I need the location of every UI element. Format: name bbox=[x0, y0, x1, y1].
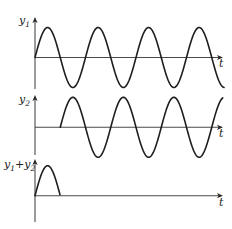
y1-axis-label: y1 bbox=[18, 14, 30, 29]
sum-axis-label: y1+y2 bbox=[3, 158, 35, 173]
y2-time-label: t bbox=[219, 127, 224, 140]
sum-time-label: t bbox=[219, 196, 224, 209]
y2-axis-label: y2 bbox=[18, 93, 30, 108]
panel-y2: y2 t bbox=[18, 93, 224, 157]
sum-wave-curve bbox=[35, 166, 60, 196]
wave-superposition-diagram: y1 t y2 t y1+y2 t bbox=[0, 0, 232, 229]
panel-y1: y1 t bbox=[18, 14, 224, 89]
panel-y1-plus-y2: y1+y2 t bbox=[3, 158, 224, 222]
y1-time-label: t bbox=[219, 57, 224, 70]
